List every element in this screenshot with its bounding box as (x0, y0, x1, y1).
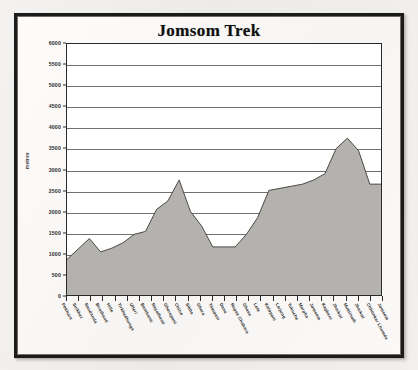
x-tick-label: Ulleri (128, 302, 138, 315)
x-tick (151, 296, 152, 301)
x-tick-label: Suikhet (72, 302, 84, 319)
x-tick (358, 296, 359, 301)
x-tick-label: Dana (219, 302, 229, 314)
x-tick (90, 296, 91, 301)
x-tick-label: Ghasa (241, 302, 252, 317)
plot-area (66, 43, 382, 296)
x-tick-label: Ghara (196, 302, 207, 316)
x-tick (260, 296, 261, 301)
y-axis-ticks (18, 43, 66, 296)
x-tick-label: Jharkot (354, 302, 366, 319)
x-tick (309, 296, 310, 301)
x-tick-label: Lete (252, 302, 261, 313)
x-tick (78, 296, 79, 301)
x-tick (188, 296, 189, 301)
x-tick (346, 296, 347, 301)
x-tick (236, 296, 237, 301)
page-title: Jomsom Trek (18, 21, 400, 41)
x-tick (200, 296, 201, 301)
x-tick (224, 296, 225, 301)
x-tick (321, 296, 322, 301)
x-tick-label: Chhonkar Lhumda (365, 302, 389, 341)
x-tick (163, 296, 164, 301)
x-tick (273, 296, 274, 301)
picture-frame: Jomsom Trek metres 050010001500200025003… (14, 13, 404, 358)
x-tick (115, 296, 116, 301)
picture-frame-inner: Jomsom Trek metres 050010001500200025003… (17, 16, 401, 355)
x-tick (370, 296, 371, 301)
x-tick (285, 296, 286, 301)
elevation-area-series (67, 44, 381, 295)
x-tick (212, 296, 213, 301)
area-fill (67, 138, 381, 295)
x-tick (127, 296, 128, 301)
x-tick (175, 296, 176, 301)
x-tick (248, 296, 249, 301)
x-tick (102, 296, 103, 301)
x-tick-label: Larjung (275, 302, 287, 319)
x-tick (333, 296, 334, 301)
x-tick-label: Chitre (173, 302, 184, 316)
x-tick (66, 296, 67, 301)
x-tick (297, 296, 298, 301)
x-tick (382, 296, 383, 301)
x-tick (139, 296, 140, 301)
x-tick-label: Hille (106, 302, 115, 313)
x-tick-label: Sikha (185, 302, 195, 315)
x-axis-tick-labels: PokharaSuikhetNaudandaBirethantiHilleTir… (66, 302, 382, 362)
